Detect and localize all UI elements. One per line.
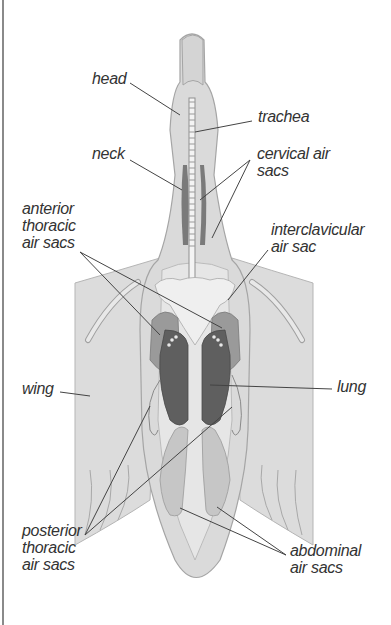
- trachea-illustration: [189, 98, 195, 308]
- label-head: head: [92, 70, 126, 87]
- label-trachea: trachea: [258, 108, 309, 125]
- label-cervical-air-sacs: cervical air sacs: [257, 145, 330, 179]
- label-wing: wing: [22, 380, 54, 397]
- cervical-air-sac-left: [182, 165, 189, 245]
- label-abdominal-air-sacs: abdominal air sacs: [290, 542, 361, 576]
- label-neck: neck: [92, 145, 125, 162]
- label-anterior-thoracic-air-sacs: anterior thoracic air sacs: [22, 200, 76, 251]
- label-interclavicular-air-sac: interclavicular air sac: [271, 221, 364, 255]
- label-posterior-thoracic-air-sacs: posterior thoracic air sacs: [22, 522, 82, 573]
- label-lung: lung: [337, 378, 366, 395]
